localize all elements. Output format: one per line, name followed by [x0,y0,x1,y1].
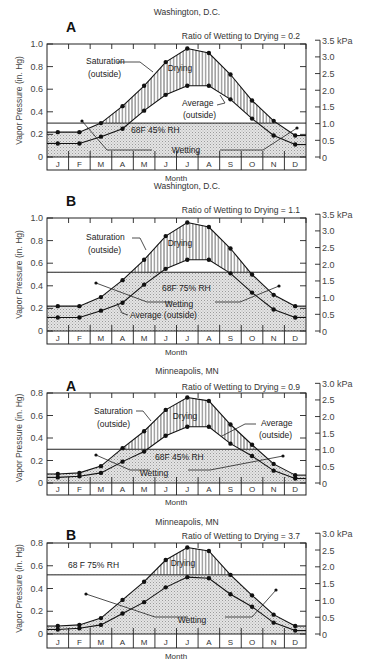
month-label: M [141,160,148,169]
kpa-tick-label: 2.0 [322,260,335,270]
y-tick-label: 0.4 [30,584,43,594]
average-marker [164,434,168,438]
saturation-marker [99,464,103,468]
month-label: O [249,334,255,343]
wetting-label: Wetting [140,468,169,478]
month-label: N [271,334,277,343]
saturation-label: Saturation [86,56,125,66]
kpa-tick-label: 1.0 [322,119,335,129]
average-marker [185,575,189,579]
month-label: M [141,485,148,494]
month-label: M [98,334,105,343]
wetting-leader-dot [94,453,97,456]
kpa-tick-label: 2.0 [322,86,335,96]
kpa-tick-label: 3.0 kPa [322,529,353,539]
panel-letter: B [66,193,76,209]
average-label: Average [182,98,214,108]
x-axis-label: Month [165,348,187,357]
month-label: J [185,638,189,647]
saturation-marker [164,558,168,562]
chart-panel-4: Minneapolis, MNBRatio of Wetting to Dryi… [14,517,353,661]
kpa-tick-label: 2.5 [322,395,335,405]
saturation-marker [185,220,189,224]
y-axis-label: Vapor Pressure (in. Hg) [14,56,24,145]
saturation-marker [185,46,189,50]
saturation-marker [99,295,103,299]
saturation-label-sub: (outside) [88,69,121,79]
y-tick-label: 1.0 [30,213,43,223]
chart-title: Minneapolis, MN [155,517,218,527]
average-leader [217,95,225,105]
saturation-marker [293,624,297,628]
saturation-marker [271,119,275,123]
kpa-tick-label: 1.5 [322,102,335,112]
kpa-tick-label: 0.5 [322,310,335,320]
average-marker [271,133,275,137]
y-tick-label: 0 [38,478,43,488]
average-marker [120,127,124,131]
saturation-marker [142,429,146,433]
wetting-leader-dot [277,284,280,287]
wetting-shaded-area [47,575,306,634]
average-marker [120,459,124,463]
average-marker [164,93,168,97]
saturation-leader [132,238,146,250]
kpa-tick-label: 0.5 [322,613,335,623]
kpa-tick-label: 1.0 [322,596,335,606]
y-tick-label: 0.6 [30,411,43,421]
average-marker [77,141,81,145]
month-label: J [164,485,168,494]
saturation-marker [185,395,189,399]
wetting-leader-dot [84,592,87,595]
month-label: A [120,334,126,343]
month-label: J [56,160,60,169]
month-label: M [98,638,105,647]
wetting-leader-dot [281,454,284,457]
saturation-label-sub: (outside) [97,419,130,429]
average-marker [185,258,189,262]
chart-panel-3: Minneapolis, MNARatio of Wetting to Dryi… [14,366,353,507]
y-axis-label: Vapor Pressure (in. Hg) [14,394,24,483]
month-label: F [77,334,82,343]
month-label: D [292,160,298,169]
saturation-leader [136,411,151,421]
kpa-tick-label: 2.5 [322,243,335,253]
average-marker [77,626,81,630]
saturation-marker [142,579,146,583]
saturation-marker [250,593,254,597]
y-tick-label: 0.2 [30,606,43,616]
month-label: J [164,160,168,169]
month-label: J [56,334,60,343]
y-tick-label: 0.8 [30,388,43,398]
month-label: D [292,638,298,647]
saturation-marker [56,304,60,308]
month-label: S [228,160,233,169]
kpa-tick-label: 2.5 [322,69,335,79]
average-marker [77,315,81,319]
saturation-marker [250,98,254,102]
chart-title: Minneapolis, MN [155,366,218,376]
kpa-tick-label: 1.5 [322,276,335,286]
average-marker [250,290,254,294]
month-label: M [98,160,105,169]
indoor-condition-label: 68 F 75% RH [68,560,119,570]
saturation-label: Saturation [86,232,125,242]
kpa-tick-label: 0.5 [322,136,335,146]
drying-label: Drying [168,238,193,248]
saturation-marker [207,225,211,229]
saturation-marker [142,84,146,88]
saturation-marker [207,51,211,55]
average-marker [56,315,60,319]
month-label: A [206,334,212,343]
wetting-leader-dot [80,119,83,122]
average-marker [250,116,254,120]
kpa-tick-label: 3.0 [322,226,335,236]
average-marker [164,585,168,589]
y-tick-label: 0.4 [30,107,43,117]
y-tick-label: 0.8 [30,62,43,72]
y-tick-label: 0.2 [30,303,43,313]
average-marker [271,307,275,311]
wetting-leader-dot [94,281,97,284]
y-tick-label: 0.6 [30,561,43,571]
saturation-label-sub: (outside) [88,245,121,255]
